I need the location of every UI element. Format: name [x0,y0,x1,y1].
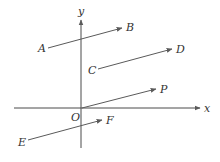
vector-op [82,89,156,108]
vector-ef [28,120,102,140]
vector-diagram: x y O ABCDPEF [0,0,220,162]
vectors-group: ABCDPEF [17,21,185,149]
vector-ab [48,28,122,48]
point-label-p: P [159,83,168,96]
point-label-a: A [37,42,46,55]
y-axis-label: y [77,5,85,18]
point-label-e: E [17,136,26,149]
origin-label: O [71,111,80,124]
point-label-b: B [125,21,134,34]
x-axis-label: x [204,102,211,115]
point-label-f: F [105,114,114,127]
point-label-c: C [88,64,97,77]
point-label-d: D [175,43,185,56]
vector-cd [98,49,172,69]
